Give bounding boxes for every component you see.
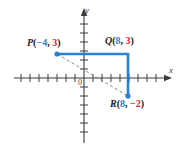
point-label-R: R(8, −2) bbox=[110, 99, 144, 109]
x-axis-arrow-icon bbox=[164, 75, 172, 81]
point-label-Q: Q(8, 3) bbox=[105, 36, 134, 46]
point-label-R-y: −2 bbox=[130, 98, 141, 109]
x-axis-label: x bbox=[169, 66, 173, 75]
point-label-P-x: −4 bbox=[36, 37, 47, 48]
y-axis-label: y bbox=[85, 6, 89, 15]
point-label-P-close: ) bbox=[57, 37, 60, 48]
segment-PR-dashed bbox=[57, 54, 128, 96]
origin-label: 0 bbox=[78, 79, 82, 87]
coordinate-plot-svg bbox=[0, 0, 179, 154]
point-label-R-close: ) bbox=[141, 98, 144, 109]
coordinate-plane-figure: P(−4, 3) Q(8, 3) R(8, −2) x y 0 bbox=[0, 0, 179, 154]
point-label-Q-close: ) bbox=[131, 35, 134, 46]
point-label-P: P(−4, 3) bbox=[27, 38, 61, 48]
point-label-R-name: R bbox=[110, 98, 117, 109]
point-dot-P bbox=[54, 51, 59, 56]
